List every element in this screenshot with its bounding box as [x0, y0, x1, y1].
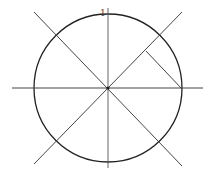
top-label: 1 [100, 8, 106, 18]
diagram-canvas: 1 [0, 0, 214, 173]
center-point [106, 86, 109, 89]
perpendicular-segment [146, 51, 182, 89]
